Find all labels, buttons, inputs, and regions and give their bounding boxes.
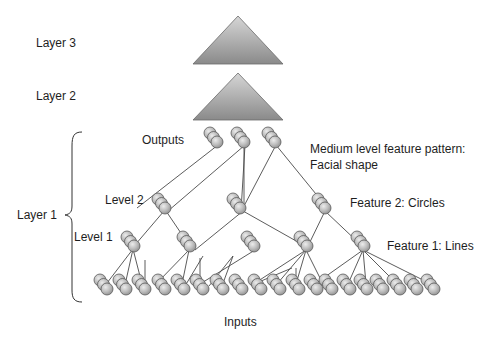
neuron-sphere: [159, 283, 171, 295]
neuron-sphere: [301, 240, 313, 252]
neuron-sphere: [428, 283, 440, 295]
neuron-sphere: [197, 283, 209, 295]
inputs-node-cluster: [171, 274, 190, 295]
neuron-sphere: [159, 202, 171, 214]
neuron-sphere: [178, 283, 190, 295]
medium-feature-label-line2: Facial shape: [310, 158, 378, 173]
neuron-sphere: [326, 283, 338, 295]
inputs-node-cluster: [337, 274, 356, 295]
neuron-sphere: [274, 283, 286, 295]
inputs-node-cluster: [370, 274, 389, 295]
level-2-label: Level 2: [105, 193, 144, 208]
neuron-sphere: [184, 240, 196, 252]
level-1-label: Level 1: [74, 230, 113, 245]
outputs-node-cluster: [204, 127, 223, 148]
feature-2-label: Feature 2: Circles: [350, 196, 445, 211]
neuron-sphere: [411, 283, 423, 295]
level1-node-cluster: [351, 231, 370, 252]
outputs-node-cluster: [262, 127, 281, 148]
neuron-sphere: [217, 283, 229, 295]
connection-edges: [107, 145, 431, 286]
inputs-node-cluster: [354, 274, 373, 295]
neuron-sphere: [234, 202, 246, 214]
feature-1-label: Feature 1: Lines: [387, 239, 474, 254]
layer-triangles: [193, 16, 283, 120]
neuron-sphere: [358, 240, 370, 252]
deep-learning-hierarchy-diagram: [0, 0, 485, 341]
neuron-sphere: [211, 136, 223, 148]
neuron-sphere: [128, 240, 140, 252]
neuron-sphere: [139, 283, 151, 295]
level1-node-cluster: [121, 231, 140, 252]
level2-node-cluster: [312, 193, 331, 214]
inputs-node-cluster: [94, 274, 113, 295]
outputs-label: Outputs: [142, 133, 184, 148]
medium-feature-label-line1: Medium level feature pattern:: [310, 142, 465, 157]
inputs-node-cluster: [152, 274, 171, 295]
neuron-sphere: [101, 283, 113, 295]
neuron-sphere: [394, 283, 406, 295]
inputs-node-cluster: [190, 274, 209, 295]
neuron-sphere: [120, 283, 132, 295]
neuron-sphere: [361, 283, 373, 295]
neuron-sphere: [255, 283, 267, 295]
level1-node-cluster: [177, 231, 196, 252]
layer-2-label: Layer 2: [36, 89, 76, 104]
layer-1-brace: [65, 132, 82, 302]
layer-3-label: Layer 3: [36, 36, 76, 51]
inputs-node-cluster: [387, 274, 406, 295]
level1-node-cluster: [294, 231, 313, 252]
neuron-sphere: [238, 136, 250, 148]
connection-edge: [137, 145, 218, 208]
connection-edge: [135, 211, 164, 245]
inputs-label: Inputs: [224, 315, 257, 330]
neuron-sphere: [293, 283, 305, 295]
inputs-node-cluster: [404, 274, 423, 295]
connection-edge: [244, 145, 276, 206]
layer-2-triangle: [193, 73, 283, 120]
connection-edge: [200, 250, 255, 284]
neuron-sphere: [319, 202, 331, 214]
connection-edge: [195, 211, 243, 250]
inputs-node-cluster: [286, 274, 305, 295]
layer-3-triangle: [193, 16, 283, 64]
inputs-node-cluster: [132, 274, 151, 295]
neuron-sphere: [236, 283, 248, 295]
inputs-node-cluster: [113, 274, 132, 295]
level2-node-cluster: [227, 193, 246, 214]
inputs-node-cluster: [421, 274, 440, 295]
level2-node-cluster: [152, 193, 171, 214]
neuron-sphere: [377, 283, 389, 295]
layer-1-label: Layer 1: [17, 208, 57, 223]
neuron-sphere: [269, 136, 281, 148]
outputs-node-cluster: [231, 127, 250, 148]
level1-node-cluster: [241, 231, 260, 252]
inputs-node-cluster: [229, 274, 248, 295]
neuron-sphere: [248, 240, 260, 252]
neuron-sphere: [344, 283, 356, 295]
inputs-node-cluster: [210, 274, 229, 295]
